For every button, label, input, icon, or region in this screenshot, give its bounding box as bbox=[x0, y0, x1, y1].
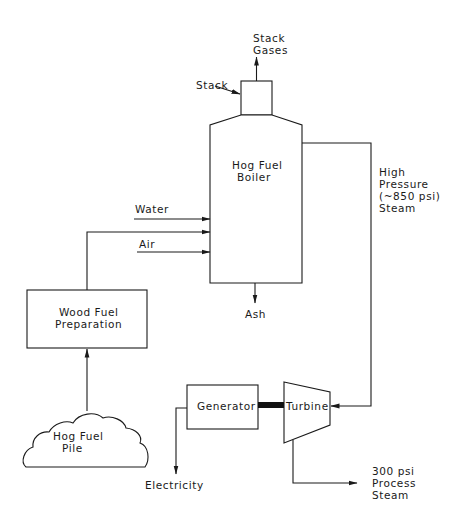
stack-gases-node: Stack Gases bbox=[253, 32, 288, 56]
hog-pile-label-line2: Pile bbox=[62, 442, 83, 454]
wood-prep-label-line1: Wood Fuel bbox=[59, 306, 119, 318]
svg-text:(~850 psi): (~850 psi) bbox=[379, 190, 440, 202]
svg-text:Pressure: Pressure bbox=[379, 178, 429, 190]
stack-box bbox=[241, 81, 272, 115]
svg-text:Steam: Steam bbox=[372, 489, 409, 501]
turbine-generator-shaft bbox=[258, 402, 285, 408]
wood-prep-label-line2: Preparation bbox=[55, 318, 122, 330]
generator-label: Generator bbox=[197, 400, 256, 412]
high-pressure-steam-line bbox=[302, 143, 371, 406]
process-steam-arrow bbox=[293, 440, 357, 483]
stack-gases-label-line1: Stack bbox=[253, 32, 285, 44]
boiler-label-line2: Boiler bbox=[237, 171, 271, 183]
turbine-label: Turbine bbox=[285, 400, 329, 412]
water-label: Water bbox=[135, 203, 169, 215]
stack-gases-label-line2: Gases bbox=[253, 44, 288, 56]
process-steam-label: 300 psi Process Steam bbox=[372, 465, 416, 501]
svg-text:Steam: Steam bbox=[379, 202, 416, 214]
boiler-label-line1: Hog Fuel bbox=[232, 159, 283, 171]
svg-text:High: High bbox=[379, 166, 406, 178]
electricity-arrow bbox=[176, 408, 187, 474]
turbine-shape bbox=[284, 382, 330, 443]
svg-text:300 psi: 300 psi bbox=[372, 465, 415, 477]
ash-label: Ash bbox=[245, 308, 266, 320]
hog-pile-label-line1: Hog Fuel bbox=[53, 430, 104, 442]
svg-text:Process: Process bbox=[372, 477, 416, 489]
boiler-shape bbox=[210, 115, 302, 283]
air-label: Air bbox=[139, 238, 155, 250]
high-pressure-steam-label: High Pressure (~850 psi) Steam bbox=[379, 166, 440, 214]
electricity-label: Electricity bbox=[145, 479, 204, 491]
process-flow-diagram: Stack Gases Stack Hog Fuel Boiler Water … bbox=[0, 0, 462, 522]
